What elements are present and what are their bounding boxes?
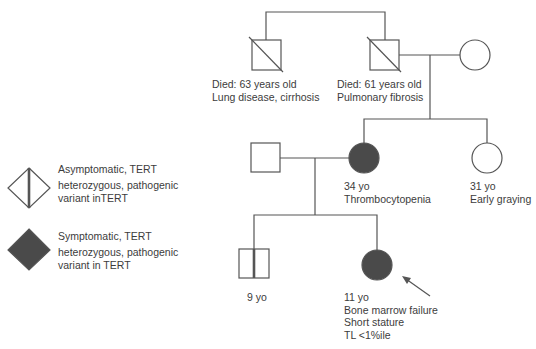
father-square (251, 143, 280, 172)
uncle-condition: Lung disease, cirrhosis (212, 91, 319, 104)
uncle-label: Died: 63 years old Lung disease, cirrhos… (212, 78, 319, 103)
gen3-sibship-line (254, 215, 377, 250)
brother-age: 9 yo (247, 291, 267, 304)
proband-arrow-icon (402, 276, 411, 284)
proband-affected-circle (362, 250, 392, 280)
gen1-sibship-line (266, 12, 385, 40)
grandfather-death-age: Died: 61 years old (337, 78, 423, 91)
proband-label: 11 yo Bone marrow failure Short stature … (344, 291, 438, 341)
grandfather-label: Died: 61 years old Pulmonary fibrosis (337, 78, 423, 103)
mother-condition: Thrombocytopenia (344, 193, 431, 206)
legend-symptomatic-label: Symptomatic, TERT heterozygous, pathogen… (58, 230, 178, 272)
proband-condition-1: Bone marrow failure (344, 304, 438, 317)
proband-telomere-length: TL <1%ile (344, 329, 438, 342)
uncle-death-age: Died: 63 years old (212, 78, 319, 91)
aunt-condition: Early graying (470, 193, 531, 206)
legend-symptomatic-diamond-icon (8, 229, 50, 270)
grandmother-circle (460, 40, 490, 70)
aunt-age: 31 yo (470, 180, 531, 193)
aunt-circle (472, 143, 502, 173)
mother-affected-circle (349, 143, 379, 173)
grandfather-condition: Pulmonary fibrosis (337, 91, 423, 104)
legend-symptomatic-line1: Symptomatic, TERT (58, 230, 178, 243)
mother-label: 34 yo Thrombocytopenia (344, 180, 431, 205)
gen2-sibship-line (364, 119, 487, 143)
legend-asymptomatic-line2: heterozygous, pathogenic (58, 179, 178, 192)
legend-symptomatic-line3: variant in TERT (58, 259, 178, 272)
legend-asymptomatic-label: Asymptomatic, TERT heterozygous, pathoge… (58, 163, 178, 205)
mother-age: 34 yo (344, 180, 431, 193)
proband-condition-2: Short stature (344, 316, 438, 329)
legend-asymptomatic-line1: Asymptomatic, TERT (58, 163, 178, 176)
aunt-label: 31 yo Early graying (470, 180, 531, 205)
brother-label: 9 yo (247, 291, 267, 304)
legend-asymptomatic-line3: variant inTERT (58, 192, 178, 205)
proband-age: 11 yo (344, 291, 438, 304)
legend-symptomatic-line2: heterozygous, pathogenic (58, 246, 178, 259)
